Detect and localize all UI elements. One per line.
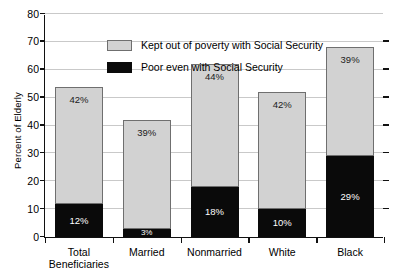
- x-axis-category-label: White: [248, 246, 316, 258]
- bar-value-label: 39%: [341, 55, 360, 65]
- bar-segment-poor[interactable]: 12%: [55, 204, 103, 237]
- bar-segment-poor[interactable]: 29%: [326, 156, 374, 237]
- bar-value-label: 39%: [137, 128, 156, 138]
- y-axis-tick-label: 20: [27, 176, 39, 187]
- legend-item[interactable]: Poor even with Social Security: [107, 59, 323, 76]
- bar-segment-kept-out-of-poverty[interactable]: 42%: [258, 92, 306, 209]
- x-axis-tick-mark: [316, 237, 317, 243]
- x-axis-tick-mark: [45, 237, 46, 243]
- bar-group[interactable]: 18%44%: [191, 64, 239, 237]
- y-axis-tick-label: 60: [27, 65, 39, 76]
- bar-segment-kept-out-of-poverty[interactable]: 39%: [123, 120, 171, 229]
- bar-segment-poor[interactable]: 10%: [258, 209, 306, 237]
- bar-value-label: 29%: [341, 192, 360, 202]
- y-axis-tick-label: 70: [27, 37, 39, 48]
- x-axis-category-label: Black: [316, 246, 384, 258]
- bar-group[interactable]: 10%42%: [258, 92, 306, 237]
- y-axis-tick-mark-right: [383, 40, 389, 41]
- y-axis-tick-label: 10: [27, 204, 39, 215]
- bar-segment-kept-out-of-poverty[interactable]: 39%: [326, 47, 374, 156]
- plot-area: 01020304050607080 12%42%3%39%18%44%10%42…: [44, 15, 383, 238]
- gridline: [45, 13, 383, 14]
- bar-value-label: 10%: [273, 218, 292, 228]
- y-axis-title: Percent of Elderly: [12, 71, 23, 191]
- x-axis-tick-mark: [248, 237, 249, 243]
- y-axis-tick-mark-right: [383, 68, 389, 69]
- y-axis-tick-label: 50: [27, 92, 39, 103]
- chart-legend: Kept out of poverty with Social Security…: [107, 37, 323, 81]
- y-axis-tick-mark-right: [383, 96, 389, 97]
- legend-label: Kept out of poverty with Social Security: [141, 40, 323, 51]
- y-axis-tick-label: 80: [27, 9, 39, 20]
- legend-item[interactable]: Kept out of poverty with Social Security: [107, 37, 323, 54]
- bar-value-label: 42%: [273, 100, 292, 110]
- y-axis-tick-label: 30: [27, 148, 39, 159]
- legend-swatch-black: [107, 62, 132, 73]
- bar-segment-kept-out-of-poverty[interactable]: 44%: [191, 64, 239, 187]
- x-axis-category-label: Total Beneficiaries: [45, 246, 113, 270]
- x-axis-tick-mark: [384, 237, 385, 243]
- bar-segment-kept-out-of-poverty[interactable]: 42%: [55, 87, 103, 204]
- y-axis-tick-mark-right: [383, 180, 389, 181]
- y-axis-tick-mark-right: [383, 208, 389, 209]
- x-axis-category-label: Married: [113, 246, 181, 258]
- y-axis-tick-mark-right: [383, 124, 389, 125]
- bar-value-label: 3%: [141, 229, 153, 237]
- bar-group[interactable]: 12%42%: [55, 86, 103, 237]
- y-axis-tick-label: 40: [27, 120, 39, 131]
- y-axis-tick-label: 0: [33, 232, 39, 243]
- legend-swatch-gray: [107, 40, 132, 51]
- bar-value-label: 18%: [205, 207, 224, 217]
- bar-segment-poor[interactable]: 3%: [123, 229, 171, 237]
- legend-label: Poor even with Social Security: [141, 62, 283, 73]
- bar-group[interactable]: 3%39%: [123, 120, 171, 237]
- bar-group[interactable]: 29%39%: [326, 47, 374, 237]
- bar-value-label: 42%: [69, 95, 88, 105]
- x-axis-tick-mark: [113, 237, 114, 243]
- y-axis-tick-mark: [40, 13, 45, 14]
- y-axis-tick-mark-right: [383, 152, 389, 153]
- bar-segment-poor[interactable]: 18%: [191, 187, 239, 237]
- x-axis-tick-mark: [181, 237, 182, 243]
- stacked-bar-chart: Percent of Elderly 01020304050607080 12%…: [0, 0, 408, 280]
- bar-value-label: 12%: [69, 216, 88, 226]
- x-axis-category-label: Nonmarried: [181, 246, 249, 258]
